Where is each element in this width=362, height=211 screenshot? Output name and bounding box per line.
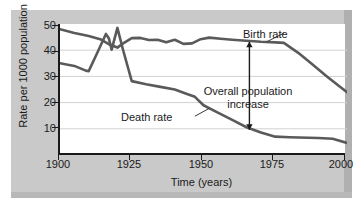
overall-population-increase-label: Overall population increase — [196, 85, 300, 111]
panel-shadow-bottom — [11, 192, 352, 198]
y-tick-label-20: 20 — [34, 97, 56, 108]
overall-increase-line-2: increase — [227, 98, 269, 110]
figure-root: Rate per 1000 population 50 40 30 20 10 … — [0, 0, 362, 211]
overall-increase-line-1: Overall population — [204, 85, 293, 97]
x-tick-label-1950: 1950 — [181, 158, 221, 170]
x-axis-title: Time (years) — [58, 176, 345, 188]
death-rate-label: Death rate — [121, 111, 172, 124]
x-tick-label-1925: 1925 — [109, 158, 149, 170]
x-tick-label-2000: 2000 — [321, 158, 361, 170]
y-axis-tick-group: 50 40 30 20 10 — [26, 0, 56, 211]
x-tick-label-1900: 1900 — [38, 158, 78, 170]
y-tick-label-10: 10 — [34, 123, 56, 134]
birth-rate-label: Birth rate — [243, 28, 288, 41]
annotation-graphics-group — [195, 33, 284, 130]
x-tick-label-1975: 1975 — [252, 158, 292, 170]
overall-increase-arrow-head-up — [246, 42, 252, 48]
